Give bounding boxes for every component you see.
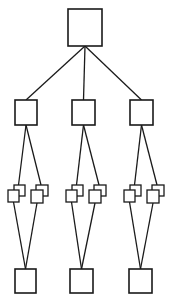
- edge-branch-center-to-pair-0: [77, 125, 84, 185]
- branch-center-pair-1-front-node: [89, 190, 101, 203]
- branch-left-pair-1-front-node: [31, 190, 43, 203]
- branch-center-mid-node: [72, 100, 95, 125]
- branch-right-pair-1-front-node: [147, 190, 159, 203]
- edge-root-to-branch-left: [26, 46, 85, 100]
- branch-left-pair-0-front-node: [8, 190, 19, 202]
- edge-root-to-branch-right: [85, 46, 142, 100]
- edges: [14, 46, 158, 269]
- nodes: [8, 9, 164, 293]
- edge-pair-1-to-leaf-branch-left: [26, 203, 38, 269]
- edge-pair-1-to-leaf-branch-right: [141, 203, 154, 269]
- tree-diagram: [0, 0, 173, 299]
- branch-left-mid-node: [15, 100, 37, 125]
- edge-pair-0-to-leaf-branch-right: [130, 202, 141, 269]
- branch-left-leaf-node: [15, 269, 36, 293]
- branch-center-pair-0-front-node: [66, 190, 77, 202]
- edge-branch-left-to-pair-1: [26, 125, 41, 185]
- edge-pair-0-to-leaf-branch-left: [14, 202, 26, 269]
- edge-branch-left-to-pair-0: [19, 125, 27, 185]
- edge-branch-center-to-pair-1: [84, 125, 100, 185]
- branch-right-leaf-node: [129, 269, 152, 293]
- edge-pair-0-to-leaf-branch-center: [72, 202, 82, 269]
- edge-root-to-branch-center: [84, 46, 86, 100]
- root-node: [68, 9, 102, 46]
- branch-right-mid-node: [130, 100, 153, 125]
- edge-pair-1-to-leaf-branch-center: [82, 203, 96, 269]
- branch-right-pair-0-front-node: [124, 190, 135, 202]
- edge-branch-right-to-pair-0: [135, 125, 142, 185]
- edge-branch-right-to-pair-1: [142, 125, 158, 185]
- branch-center-leaf-node: [70, 269, 93, 293]
